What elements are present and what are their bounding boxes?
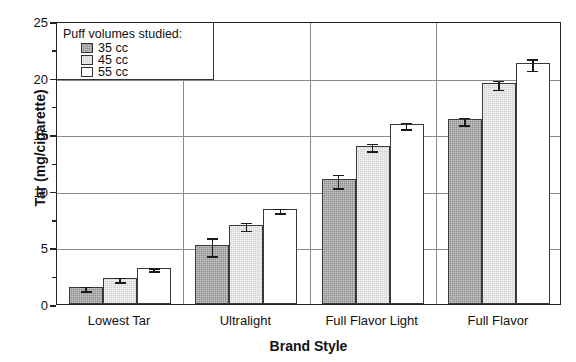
error-bar-cap-bottom (207, 256, 218, 258)
error-bar-cap-top (115, 278, 126, 280)
error-bar-cap-top (333, 175, 344, 177)
bar (482, 83, 516, 304)
error-bar-stem (338, 175, 340, 189)
error-bar-cap-top (493, 81, 504, 83)
error-bar-cap-bottom (527, 71, 538, 73)
y-axis-tick-label: 25 (4, 15, 48, 30)
bar (322, 179, 356, 304)
chart-figure: Tar (mg/cigarette) Brand Style 051015202… (0, 0, 576, 362)
legend-item: 55 cc (81, 66, 213, 78)
y-axis-tick-label: 10 (4, 184, 48, 199)
y-axis-tick-label: 0 (4, 298, 48, 313)
error-bar-cap-bottom (275, 213, 286, 215)
error-bar-cap-top (149, 268, 160, 270)
x-axis-category-label: Full Flavor (468, 313, 529, 328)
error-bar-cap-top (81, 287, 92, 289)
y-axis-tick-label: 20 (4, 71, 48, 86)
y-axis-tick-label: 15 (4, 128, 48, 143)
error-bar-cap-top (459, 118, 470, 120)
x-axis-category-label: Ultralight (220, 313, 271, 328)
x-axis-category-label: Lowest Tar (88, 313, 151, 328)
legend-title: Puff volumes studied: (63, 27, 213, 41)
legend-items: 35 cc45 cc55 cc (63, 42, 213, 78)
error-bar-cap-bottom (81, 291, 92, 293)
y-axis-tick-mark (50, 305, 56, 307)
legend-swatch-icon (81, 43, 93, 53)
error-bar-cap-bottom (333, 188, 344, 190)
error-bar-stem (212, 238, 214, 256)
legend: Puff volumes studied: 35 cc45 cc55 cc (57, 23, 214, 80)
x-axis-category-label: Full Flavor Light (325, 313, 417, 328)
error-bar-cap-top (401, 123, 412, 125)
bar (448, 119, 482, 304)
bar (356, 146, 390, 304)
error-bar-stem (532, 59, 534, 70)
x-axis-title: Brand Style (56, 338, 561, 354)
bar (390, 124, 424, 304)
error-bar-cap-bottom (401, 129, 412, 131)
bar (263, 209, 297, 304)
bar (229, 225, 263, 304)
y-axis-tick-label: 5 (4, 241, 48, 256)
error-bar-cap-top (367, 144, 378, 146)
error-bar-cap-bottom (493, 90, 504, 92)
error-bar-cap-bottom (149, 271, 160, 273)
error-bar-cap-bottom (241, 231, 252, 233)
error-bar-cap-bottom (459, 125, 470, 127)
bar (137, 268, 171, 304)
bar (516, 63, 550, 304)
group-separator (436, 23, 437, 304)
legend-swatch-icon (81, 55, 93, 65)
error-bar-cap-top (207, 238, 218, 240)
error-bar-cap-top (275, 209, 286, 211)
error-bar-cap-bottom (115, 282, 126, 284)
error-bar-cap-bottom (367, 151, 378, 153)
error-bar-cap-top (241, 223, 252, 225)
legend-item-label: 55 cc (98, 66, 128, 78)
legend-swatch-icon (81, 67, 93, 77)
group-separator (310, 23, 311, 304)
error-bar-cap-top (527, 59, 538, 61)
